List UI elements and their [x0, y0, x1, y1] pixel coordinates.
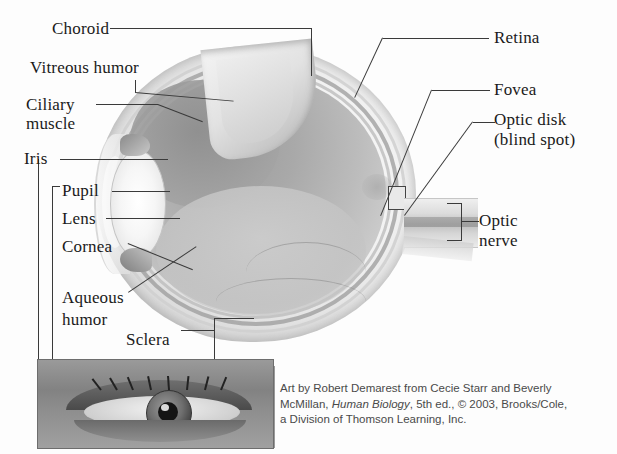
- label-retina: Retina: [494, 28, 540, 47]
- leader-iris-h: [60, 159, 168, 160]
- leader-optic-nerve-h: [461, 221, 479, 222]
- label-optic-nerve-l1: Optic: [479, 211, 518, 230]
- eye-photograph-inset: [37, 359, 274, 449]
- lens-region: [110, 150, 166, 258]
- leader-sclera-h: [181, 330, 215, 331]
- label-ciliary-line2: muscle: [26, 114, 75, 133]
- label-aqueous-line1: Aqueous: [62, 288, 124, 307]
- leader-sclera-h2: [214, 318, 254, 319]
- leader-sclera-v-up: [214, 318, 215, 330]
- leader-choroid-h: [110, 28, 312, 29]
- leader-pupil-h: [112, 191, 170, 192]
- caption-line-2a: McMillan,: [280, 398, 332, 410]
- bracket-optic-nerve-bot: [447, 240, 461, 241]
- caption-line-2b: , 5th ed., © 2003, Brooks/Cole,: [410, 398, 567, 410]
- leader-fovea-h: [432, 90, 490, 91]
- leader-vitreous-v: [135, 80, 136, 92]
- caption-divider: [274, 366, 275, 448]
- leader-choroid-v: [311, 28, 312, 76]
- bracket-optic-nerve-v: [461, 203, 462, 241]
- label-vitreous-humor: Vitreous humor: [30, 58, 139, 77]
- label-optic-nerve-l2: nerve: [479, 231, 518, 250]
- leader-pupil-tick: [52, 186, 60, 187]
- iris-upper: [120, 134, 150, 156]
- label-optic-disk-l2: (blind spot): [494, 130, 575, 149]
- lower-eyelid: [74, 420, 246, 442]
- corneal-reflection: [161, 404, 169, 411]
- label-ciliary-line1: Ciliary: [26, 95, 75, 114]
- label-optic-disk-l1: Optic disk: [494, 110, 566, 129]
- leader-lens-h: [106, 218, 180, 219]
- label-lens: Lens: [62, 209, 96, 228]
- leader-ciliary-h: [96, 104, 158, 105]
- label-cornea: Cornea: [62, 237, 112, 256]
- label-aqueous-line2: humor: [62, 310, 107, 329]
- leader-pupil-v: [52, 186, 53, 381]
- label-sclera: Sclera: [126, 330, 170, 349]
- caption-book-title: Human Biology: [332, 398, 410, 410]
- figure-caption: Art by Robert Demarest from Cecie Starr …: [280, 381, 600, 428]
- bracket-optic-nerve-top: [447, 203, 461, 204]
- label-iris: Iris: [24, 149, 47, 168]
- leader-retina-h: [383, 38, 489, 39]
- label-fovea: Fovea: [494, 80, 537, 99]
- eye-anatomy-figure: Choroid Vitreous humor Ciliary muscle Ir…: [0, 0, 617, 454]
- caption-line-1: Art by Robert Demarest from Cecie Starr …: [280, 382, 552, 394]
- label-choroid: Choroid: [52, 19, 109, 38]
- label-pupil: Pupil: [62, 181, 99, 200]
- leader-opticdisk-h: [473, 122, 495, 123]
- caption-line-3: a Division of Thomson Learning, Inc.: [280, 413, 466, 425]
- eyeball-illustration: [96, 46, 416, 342]
